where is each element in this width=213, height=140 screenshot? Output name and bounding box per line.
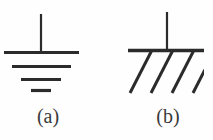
- chassis-ground-hatch-line: [130, 50, 152, 93]
- chassis-ground-hatch-line: [172, 50, 194, 93]
- panel-caption-a: (a): [0, 106, 96, 126]
- chassis-ground-symbol: [128, 12, 213, 93]
- ground-symbols-figure: (a) (b): [0, 0, 213, 140]
- chassis-ground-hatch-line: [151, 50, 173, 93]
- earth-ground-symbol: [4, 14, 79, 91]
- panel-caption-b: (b): [120, 106, 213, 126]
- chassis-ground-hatch-line: [193, 50, 213, 93]
